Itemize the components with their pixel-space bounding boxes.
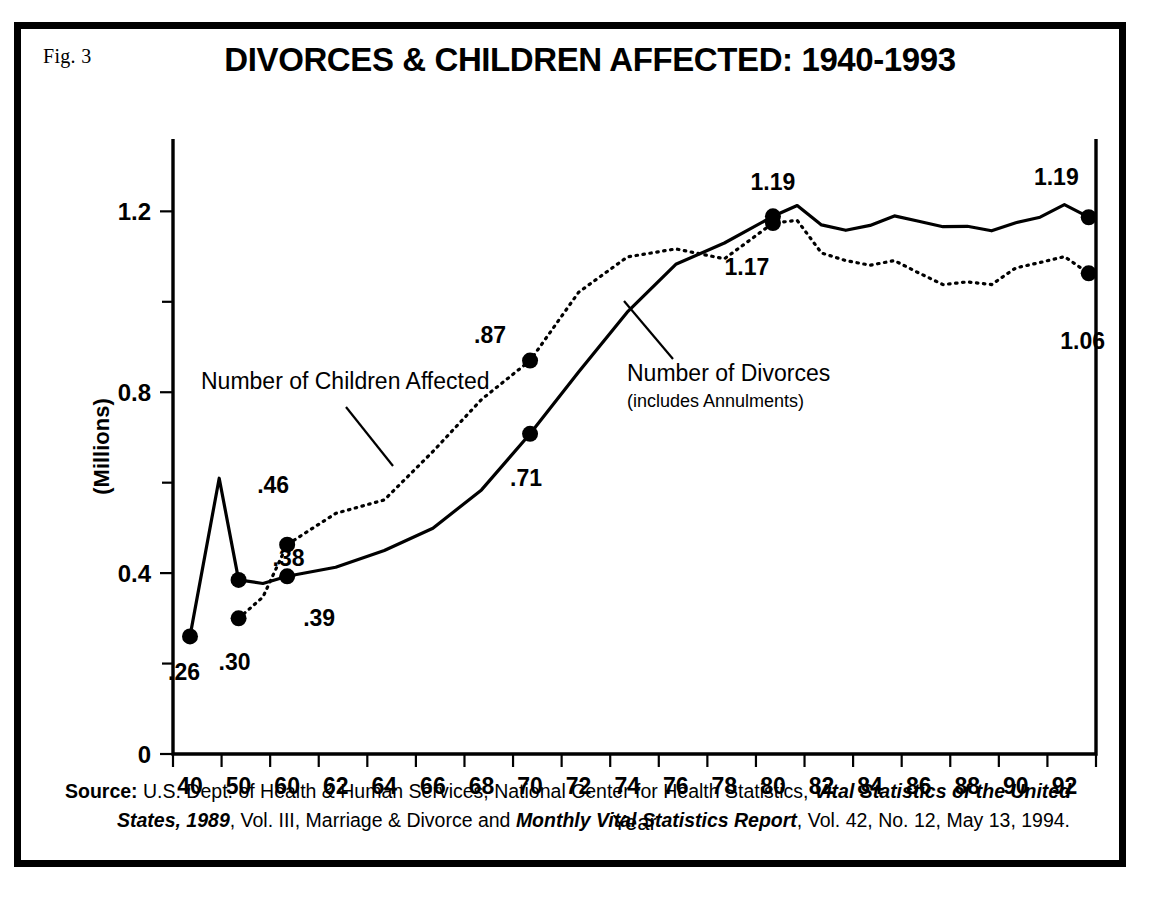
line-chart-svg: 00.40.81.2405060626466687072747678808284… (21, 29, 1119, 860)
data-point-value-label: 1.17 (725, 254, 770, 280)
data-point-value-label: .26 (168, 659, 200, 685)
divorces-series-sublabel: (includes Annulments) (627, 391, 804, 411)
source-text-1: U.S. Dept. of Health & Human Services, N… (143, 780, 808, 802)
divorces-series-label: Number of Divorces (627, 360, 830, 386)
data-point-value-label: .38 (273, 545, 305, 571)
y-tick-label: 0.8 (118, 379, 151, 406)
source-citation: Source: U.S. Dept. of Health & Human Ser… (65, 777, 1095, 834)
series-line (190, 205, 1089, 637)
data-point-value-label: .39 (303, 605, 335, 631)
series-line (239, 220, 1089, 618)
children-leader-line (346, 407, 393, 466)
figure-frame: Fig. 3 DIVORCES & CHILDREN AFFECTED: 194… (14, 22, 1126, 867)
data-point-value-label: 1.06 (1060, 328, 1105, 354)
data-point-marker (1081, 265, 1097, 281)
data-point-labels: .26.38.39.711.191.19.30.46.871.171.06 (168, 164, 1105, 685)
y-tick-label: 1.2 (118, 198, 151, 225)
data-point-marker (1081, 209, 1097, 225)
data-point-marker (765, 215, 781, 231)
data-point-value-label: 1.19 (751, 169, 796, 195)
data-point-value-label: .30 (219, 649, 251, 675)
data-point-marker (231, 610, 247, 626)
data-point-markers (182, 208, 1097, 644)
source-text-3: , Vol. 42, No. 12, May 13, 1994. (797, 809, 1070, 831)
chart-plot-area: 00.40.81.2405060626466687072747678808284… (21, 29, 1119, 860)
y-axis-title: (Millions) (89, 398, 114, 495)
data-point-marker (231, 572, 247, 588)
data-series (190, 205, 1089, 637)
data-point-marker (522, 353, 538, 369)
data-point-value-label: 1.19 (1034, 164, 1079, 190)
data-point-value-label: .87 (474, 322, 506, 348)
axes: 00.40.81.2405060626466687072747678808284… (89, 139, 1096, 835)
children-series-label: Number of Children Affected (201, 368, 490, 394)
source-text-2: , Vol. III, Marriage & Divorce and (230, 809, 511, 831)
data-point-value-label: .46 (257, 472, 289, 498)
data-point-marker (522, 426, 538, 442)
y-tick-label: 0 (138, 741, 151, 768)
series-annotations: Number of Children AffectedNumber of Div… (201, 301, 830, 466)
source-italic-2b: Monthly Vital Statistics Report (516, 809, 797, 831)
source-italic-1: Vital Statistics of the United (814, 780, 1071, 802)
divorces-leader-line (624, 301, 673, 359)
source-italic-2a: States, 1989 (117, 809, 230, 831)
y-tick-label: 0.4 (118, 560, 152, 587)
data-point-value-label: .71 (510, 465, 542, 491)
data-point-marker (182, 628, 198, 644)
source-heading: Source: (65, 780, 138, 802)
